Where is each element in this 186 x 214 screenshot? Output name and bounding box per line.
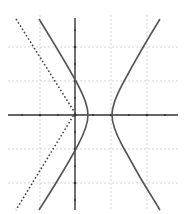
- hyperbola-plot: [0, 0, 186, 214]
